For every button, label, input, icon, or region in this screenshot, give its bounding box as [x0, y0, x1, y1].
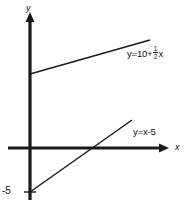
y-axis-label: y [26, 4, 30, 13]
x-axis-label: x [175, 143, 179, 152]
line-lower [30, 120, 132, 192]
y-tick-label-neg5: -5 [2, 186, 11, 196]
equation-label-upper: y=10+ 1 2 x [127, 46, 163, 61]
equation-upper-trail: x [158, 49, 163, 59]
graph-figure: y x -5 y=10+ 1 2 x y=x-5 [0, 0, 187, 205]
x-axis-arrow-icon [159, 144, 169, 153]
coordinate-plane-svg [0, 0, 187, 205]
equation-upper-lead: y=10+ [127, 49, 152, 59]
equation-upper-fraction: 1 2 [153, 46, 158, 61]
fraction-numerator: 1 [153, 46, 157, 53]
y-axis-arrow-icon [26, 12, 35, 22]
equation-label-lower: y=x-5 [133, 127, 156, 137]
fraction-denominator: 2 [153, 53, 157, 60]
